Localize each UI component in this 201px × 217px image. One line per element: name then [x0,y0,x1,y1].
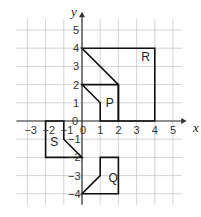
y-tick-label: 4 [73,42,79,54]
coordinate-grid: xy RPSQ −3−2−1123450012345−1−2−3−4 [0,0,201,217]
y-tick-label: −1 [68,133,81,145]
y-tick-label: −3 [68,170,81,182]
y-axis-arrow-icon [79,12,85,17]
y-tick-label: −4 [68,188,81,200]
x-tick-label: −2 [43,124,56,136]
x-tick-label: 1 [97,124,103,136]
x-tick-label: 2 [115,124,121,136]
shape-label-s: S [50,135,58,149]
x-tick-label: 4 [152,124,158,136]
y-axis-label: y [69,4,77,19]
shape-label-r: R [141,50,150,64]
x-axis-label: x [192,120,199,135]
y-tick-label: 5 [73,24,79,36]
shape-label-q: Q [108,171,117,185]
x-axis-arrow-icon [181,118,186,124]
x-tick-label: 3 [134,124,140,136]
y-tick-label: −2 [68,151,81,163]
origin-label: 0 [72,115,78,127]
shape-label-p: P [106,96,114,110]
x-tick-label-zero: 0 [80,124,86,136]
y-tick-label: 1 [73,97,79,109]
y-tick-label: 2 [73,79,79,91]
y-tick-label: 3 [73,60,79,72]
x-tick-label: −3 [24,124,37,136]
x-tick-label: 5 [170,124,176,136]
